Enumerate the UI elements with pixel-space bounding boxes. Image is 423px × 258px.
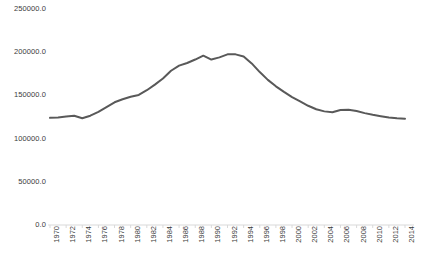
x-axis-tick-label: 2000	[295, 226, 303, 243]
x-axis-tick-label: 1978	[118, 226, 126, 243]
line-chart: 250000.0200000.0150000.0100000.050000.00…	[0, 0, 423, 258]
x-axis-tick-label: 1972	[69, 226, 77, 243]
y-axis-tick-label: 250000.0	[0, 5, 46, 13]
x-axis-tick-label: 2002	[311, 226, 319, 243]
x-axis-tick-label: 1998	[279, 226, 287, 243]
x-axis-tick-label: 2012	[392, 226, 400, 243]
y-axis: 250000.0200000.0150000.0100000.050000.00…	[0, 0, 46, 258]
x-axis-tick-label: 1982	[150, 226, 158, 243]
x-axis-tick-label: 1986	[182, 226, 190, 243]
x-axis-tick-label: 1994	[247, 226, 255, 243]
plot-area	[48, 0, 414, 258]
x-axis-tick-label: 1992	[231, 226, 239, 243]
x-axis-tick-label: 2010	[376, 226, 384, 243]
y-axis-tick-label: 200000.0	[0, 48, 46, 56]
x-axis-tick-label: 1990	[214, 226, 222, 243]
y-axis-tick-label: 150000.0	[0, 92, 46, 100]
x-axis-tick-label: 1996	[263, 226, 271, 243]
x-axis-tick-label: 2004	[327, 226, 335, 243]
x-axis-tick-label: 1970	[53, 226, 61, 243]
x-axis-tick-label: 1974	[85, 226, 93, 243]
x-axis-tick-label: 2014	[408, 226, 416, 243]
x-axis-tick-label: 1980	[134, 226, 142, 243]
x-axis: 1970197219741976197819801982198419861988…	[48, 226, 414, 258]
x-axis-tick-label: 2006	[343, 226, 351, 243]
x-axis-tick-label: 1988	[198, 226, 206, 243]
y-axis-tick-label: 100000.0	[0, 135, 46, 143]
x-axis-tick-label: 1984	[166, 226, 174, 243]
data-series-line	[50, 54, 405, 118]
y-axis-tick-label: 0.0	[0, 221, 46, 229]
x-axis-tick-label: 2008	[360, 226, 368, 243]
x-axis-tick-label: 1976	[101, 226, 109, 243]
y-axis-tick-label: 50000.0	[0, 178, 46, 186]
chart-canvas	[48, 0, 414, 258]
